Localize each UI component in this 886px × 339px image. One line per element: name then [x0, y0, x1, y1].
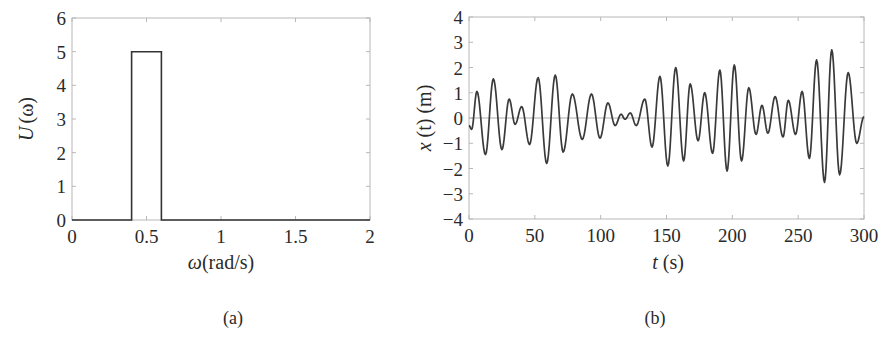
x-axis-label-b: t (s)	[652, 251, 684, 274]
figure: 0123456 00.511.52 U(ω) ω(rad/s) (a) −4−3…	[0, 0, 886, 339]
y-tick-label: 2	[454, 58, 464, 79]
x-tick-label: 150	[652, 225, 681, 246]
x-tick-label: 1	[216, 226, 226, 247]
y-axis-label-a: U(ω)	[15, 97, 38, 141]
x-tick-label: 200	[718, 225, 747, 246]
y-tick-label: −1	[443, 133, 463, 154]
y-tick-label: 2	[57, 143, 67, 164]
y-tick-label: 1	[454, 83, 464, 104]
spectrum-line	[72, 52, 370, 220]
x-tick-label: 1.5	[284, 226, 308, 247]
x-tick-label: 0	[464, 225, 474, 246]
y-tick-label: 3	[454, 32, 464, 53]
y-tick-label: −2	[443, 159, 463, 180]
y-axis-label-b: x (t) (m)	[413, 85, 436, 153]
plot-area-a	[72, 18, 370, 220]
caption-b: (b)	[645, 308, 666, 329]
x-axis-label-a: ω(rad/s)	[188, 251, 254, 274]
x-axis-ticks-a: 00.511.52	[67, 18, 375, 247]
displacement-line	[469, 50, 864, 183]
panel-b-time-series-chart: −4−3−2−101234 050100150200250300 x (t) (…	[413, 7, 878, 329]
x-tick-label: 0	[67, 226, 77, 247]
y-tick-label: −3	[443, 184, 463, 205]
panel-a-spectrum-chart: 0123456 00.511.52 U(ω) ω(rad/s) (a)	[15, 8, 375, 329]
y-tick-label: 4	[57, 75, 67, 96]
y-tick-label: 0	[454, 108, 464, 129]
x-tick-label: 100	[586, 225, 615, 246]
y-tick-label: 5	[57, 42, 67, 63]
x-tick-label: 300	[850, 225, 879, 246]
caption-a: (a)	[223, 308, 243, 329]
y-axis-ticks-a: 0123456	[57, 8, 371, 231]
x-tick-label: 0.5	[135, 226, 159, 247]
y-tick-label: 0	[57, 210, 67, 231]
y-tick-label: 3	[57, 109, 67, 130]
y-tick-label: 4	[454, 7, 464, 28]
y-tick-label: 1	[57, 176, 67, 197]
x-tick-label: 50	[525, 225, 544, 246]
x-tick-label: 250	[784, 225, 813, 246]
y-tick-label: −4	[443, 209, 464, 230]
x-tick-label: 2	[365, 226, 375, 247]
y-tick-label: 6	[57, 8, 67, 29]
